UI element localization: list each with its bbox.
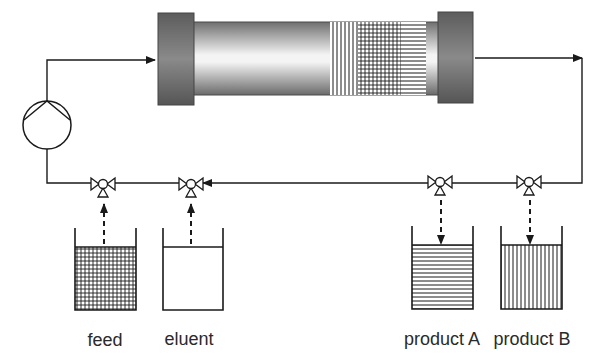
valve-product-b	[517, 176, 541, 195]
return-line-right	[541, 58, 582, 183]
vessel-feed	[75, 228, 136, 310]
vessel-product-b	[501, 226, 562, 309]
return-line-to-pump	[47, 149, 91, 183]
chromatography-column	[158, 12, 473, 105]
inlet-line	[47, 60, 155, 101]
label-feed: feed	[87, 330, 122, 350]
transfer-arrows	[104, 200, 530, 244]
valve-eluent	[179, 178, 203, 197]
vessel-eluent	[163, 228, 223, 310]
column-right-end-cap	[438, 12, 473, 103]
three-way-valve-icon	[517, 176, 541, 195]
pump-icon	[23, 101, 71, 149]
three-way-valve-icon	[179, 178, 203, 197]
column-band-vertical	[330, 22, 358, 95]
vessel-product-a	[412, 226, 473, 309]
label-eluent: eluent	[164, 329, 213, 349]
three-way-valve-icon	[91, 178, 115, 197]
column-band-horizontal	[401, 22, 426, 95]
label-product-b: product B	[493, 329, 570, 349]
valve-feed	[91, 178, 115, 197]
three-way-valve-icon	[428, 176, 452, 195]
pump	[23, 101, 71, 149]
column-left-end-cap	[158, 13, 194, 105]
column-band-grid	[358, 22, 401, 95]
separation-process-diagram: feed eluent product A product B	[0, 0, 605, 363]
valve-product-a	[428, 176, 452, 195]
label-product-a: product A	[404, 329, 480, 349]
